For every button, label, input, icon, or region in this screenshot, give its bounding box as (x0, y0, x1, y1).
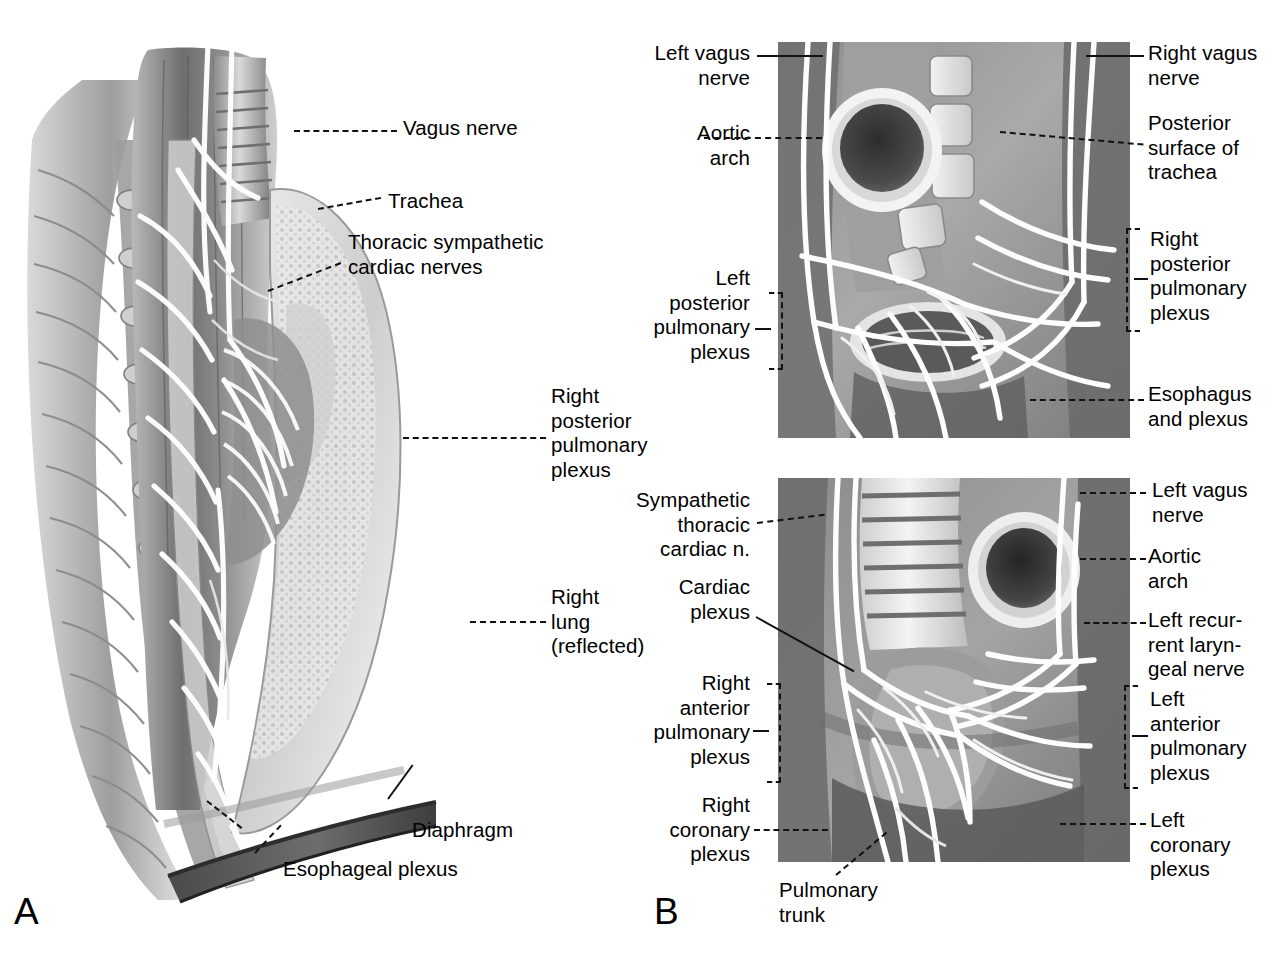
leader-right-vagus-nerve (1086, 55, 1144, 57)
label-trachea: Trachea (388, 189, 463, 214)
label-thoracic-sympathetic-cardiac-nerves: Thoracic sympathetic cardiac nerves (348, 230, 544, 279)
label-vagus-nerve: Vagus nerve (403, 116, 518, 141)
leader-right-coronary-plexus (754, 829, 828, 831)
panel-a-letter: A (14, 893, 39, 930)
leader-vagus-nerve (294, 130, 397, 132)
label-posterior-surface-of-trachea: Posterior surface of trachea (1148, 111, 1239, 185)
label-esophagus-and-plexus: Esophagus and plexus (1148, 382, 1251, 431)
label-sympathetic-thoracic-cardiac-n: Sympathetic thoracic cardiac n. (596, 488, 750, 562)
leader-right-lung-reflected (470, 621, 546, 623)
leader-left-recurrent-laryngeal-nerve (1084, 622, 1146, 624)
leader-left-anterior-pulmonary-plexus (1132, 735, 1148, 737)
label-right-coronary-plexus: Right coronary plexus (620, 793, 750, 867)
label-right-vagus-nerve: Right vagus nerve (1148, 41, 1257, 90)
panel-b-upper-illustration (778, 42, 1130, 438)
leader-esophagus-and-plexus (1030, 399, 1144, 401)
label-diaphragm: Diaphragm (412, 818, 513, 843)
label-left-vagus-nerve-lower: Left vagus nerve (1152, 478, 1248, 527)
leader-right-posterior-pulmonary-plexus (403, 437, 546, 439)
bracket-left-anterior-pulmonary-plexus (1124, 685, 1138, 789)
figure-canvas: Vagus nerve Trachea Thoracic sympathetic… (0, 0, 1265, 953)
label-pulmonary-trunk: Pulmonary trunk (779, 878, 878, 927)
label-aortic-arch-upper: Aortic arch (620, 121, 750, 170)
leader-left-vagus-nerve-lower (1080, 492, 1146, 494)
label-esophageal-plexus: Esophageal plexus (283, 857, 458, 882)
leader-aortic-arch-upper (704, 137, 822, 139)
label-aortic-arch-lower: Aortic arch (1148, 544, 1201, 593)
label-left-recurrent-laryngeal-nerve: Left recur- rent laryn- geal nerve (1148, 608, 1245, 682)
bracket-right-anterior-pulmonary-plexus (767, 683, 781, 783)
leader-left-vagus-nerve-upper (757, 55, 823, 57)
leader-aortic-arch-lower (1080, 558, 1146, 560)
panel-b-lower-illustration (778, 478, 1130, 862)
label-right-anterior-pulmonary-plexus: Right anterior pulmonary plexus (630, 671, 750, 769)
label-left-posterior-pulmonary-plexus: Left posterior pulmonary plexus (630, 266, 750, 364)
label-left-vagus-nerve-upper: Left vagus nerve (610, 41, 750, 90)
label-right-posterior-pulmonary-plexus-b: Right posterior pulmonary plexus (1150, 227, 1247, 325)
label-left-anterior-pulmonary-plexus: Left anterior pulmonary plexus (1150, 687, 1247, 785)
bracket-left-posterior-pulmonary-plexus (769, 292, 783, 370)
panel-a-illustration (18, 20, 438, 935)
leader-left-coronary-plexus (1060, 823, 1146, 825)
bracket-right-posterior-pulmonary-plexus-b (1126, 228, 1140, 332)
panel-b-letter: B (654, 893, 679, 930)
label-left-coronary-plexus: Left coronary plexus (1150, 808, 1231, 882)
label-right-posterior-pulmonary-plexus: Right posterior pulmonary plexus (551, 384, 648, 482)
leader-right-posterior-pulmonary-plexus-b (1134, 278, 1148, 280)
label-cardiac-plexus: Cardiac plexus (620, 575, 750, 624)
